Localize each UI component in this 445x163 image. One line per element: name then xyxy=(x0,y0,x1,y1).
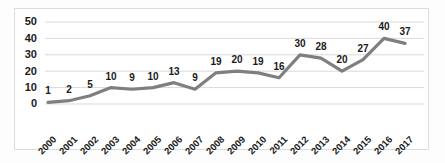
x-axis-tick-label: 2007 xyxy=(183,134,206,157)
data-point-label: 19 xyxy=(210,56,222,67)
x-axis-tick-label: 2012 xyxy=(288,134,311,157)
data-point-label: 13 xyxy=(168,66,180,77)
x-axis-tick-label: 2003 xyxy=(99,134,122,157)
x-axis-tick-label: 2001 xyxy=(57,133,80,156)
data-point-label: 9 xyxy=(129,72,135,83)
x-axis-tick-label: 2008 xyxy=(204,134,227,157)
y-axis-tick-label: 40 xyxy=(25,32,37,44)
x-axis-tick-label: 2010 xyxy=(246,134,269,157)
x-axis-tick-label: 2004 xyxy=(120,133,143,156)
data-point-label: 37 xyxy=(399,26,411,37)
data-point-label: 2 xyxy=(66,84,72,95)
line-chart-figure: 01020304050 2000200120022003200420052006… xyxy=(0,0,445,163)
x-axis-tick-label: 2013 xyxy=(309,134,332,157)
x-axis-tick-label: 2000 xyxy=(36,134,59,157)
data-point-label: 28 xyxy=(315,41,327,52)
data-point-labels: 1251091013919201916302820274037 xyxy=(45,21,411,96)
series-line xyxy=(48,38,405,102)
x-axis-tick-label: 2011 xyxy=(267,133,290,156)
y-axis-tick-labels: 01020304050 xyxy=(25,15,37,109)
y-axis-tick-label: 10 xyxy=(25,81,37,93)
data-point-label: 5 xyxy=(87,79,93,90)
data-point-label: 10 xyxy=(147,71,159,82)
x-axis-tick-label: 2009 xyxy=(225,134,248,157)
data-point-label: 27 xyxy=(357,43,369,54)
y-axis-tick-label: 50 xyxy=(25,15,37,27)
x-axis-tick-label: 2002 xyxy=(78,134,101,157)
data-point-label: 1 xyxy=(45,85,51,96)
x-axis-tick-label: 2006 xyxy=(162,134,185,157)
data-point-label: 19 xyxy=(252,56,264,67)
y-axis-tick-label: 20 xyxy=(25,65,37,77)
data-point-label: 10 xyxy=(105,71,117,82)
x-axis-tick-label: 2014 xyxy=(330,133,353,156)
y-axis-tick-label: 0 xyxy=(31,97,37,109)
chart-canvas: 01020304050 2000200120022003200420052006… xyxy=(0,0,445,163)
x-axis-tick-label: 2017 xyxy=(393,134,416,157)
data-point-label: 40 xyxy=(378,21,390,32)
x-axis-tick-label: 2015 xyxy=(351,133,374,156)
data-point-label: 30 xyxy=(294,38,306,49)
data-point-label: 16 xyxy=(273,61,285,72)
data-point-label: 9 xyxy=(192,72,198,83)
data-point-label: 20 xyxy=(336,54,348,65)
y-axis-tick-label: 30 xyxy=(25,48,37,60)
data-series-line xyxy=(48,38,405,102)
data-point-label: 20 xyxy=(231,54,243,65)
x-axis-tick-label: 2016 xyxy=(372,134,395,157)
x-axis-tick-label: 2005 xyxy=(141,133,164,156)
x-axis-tick-labels: 2000200120022003200420052006200720082009… xyxy=(36,133,416,156)
